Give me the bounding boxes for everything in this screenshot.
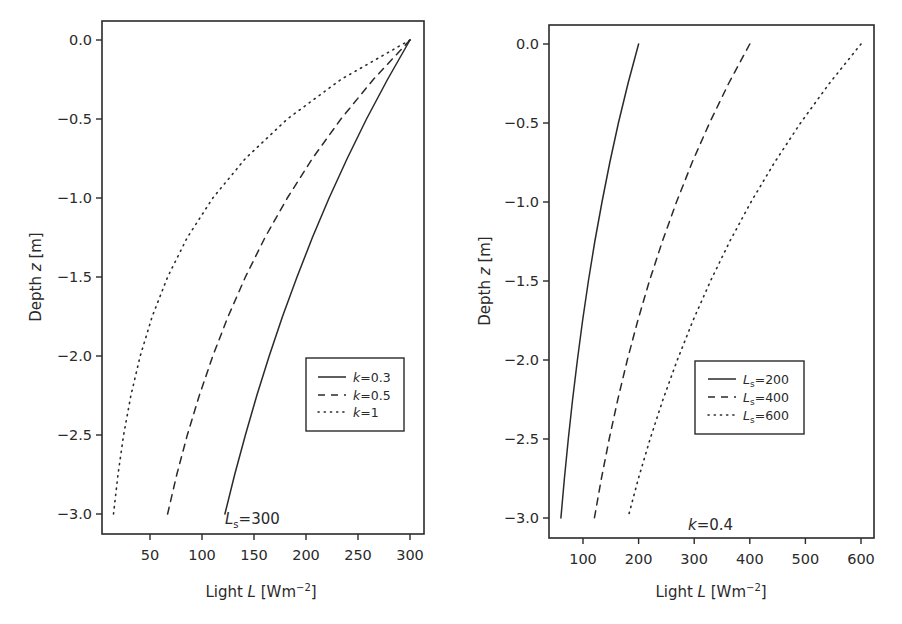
curve-k-1 <box>114 40 411 514</box>
figure: 0.0−0.5−1.0−1.5−2.0−2.5−3.0 501001502002… <box>0 0 902 624</box>
right-panel-depth-vs-light-varying-ls: 0.0−0.5−1.0−1.5−2.0−2.5−3.0 100200300400… <box>476 25 875 601</box>
left-panel-depth-vs-light-varying-k: 0.0−0.5−1.0−1.5−2.0−2.5−3.0 501001502002… <box>27 21 424 601</box>
x-tick-label: 50 <box>141 547 159 563</box>
y-tick-label: −2.0 <box>504 352 539 368</box>
k-annotation: k=0.4 <box>688 516 733 534</box>
y-tick-label: −1.0 <box>504 194 539 210</box>
curve-ls-400 <box>594 44 749 518</box>
legend-label-k05: k=0.5 <box>353 388 391 403</box>
plot-frame <box>549 25 874 538</box>
y-tick-label: −1.0 <box>57 190 92 206</box>
x-axis-label: Light L [Wm−2] <box>205 582 316 601</box>
legend: k=0.3 k=0.5 k=1 <box>306 358 404 431</box>
legend-label-ls400: Ls=400 <box>743 390 789 407</box>
y-axis-ticks: 0.0−0.5−1.0−1.5−2.0−2.5−3.0 <box>504 36 549 526</box>
x-tick-label: 150 <box>240 547 268 563</box>
y-tick-label: −1.5 <box>57 269 92 285</box>
x-tick-label: 100 <box>188 547 216 563</box>
x-tick-label: 300 <box>680 551 708 567</box>
y-tick-label: −0.5 <box>504 115 539 131</box>
y-tick-label: −1.5 <box>504 273 539 289</box>
y-tick-label: −3.0 <box>57 506 92 522</box>
x-tick-label: 400 <box>736 551 764 567</box>
curve-ls-600 <box>628 44 861 518</box>
curve-ls-200 <box>561 44 639 518</box>
y-tick-label: 0.0 <box>69 32 92 48</box>
y-axis-label: Depth z [m] <box>27 232 45 321</box>
curve-k-0-3 <box>225 40 410 514</box>
y-tick-label: 0.0 <box>516 36 539 52</box>
x-tick-label: 200 <box>292 547 320 563</box>
x-axis-ticks: 100200300400500600 <box>569 538 875 567</box>
curve-k-0-5 <box>168 40 410 514</box>
x-tick-label: 250 <box>344 547 372 563</box>
y-tick-label: −2.5 <box>504 431 539 447</box>
y-tick-label: −0.5 <box>57 111 92 127</box>
y-tick-label: −2.0 <box>57 348 92 364</box>
legend: Ls=200 Ls=400 Ls=600 <box>695 361 804 434</box>
data-curves <box>114 40 411 514</box>
plot-frame <box>102 21 424 534</box>
x-axis-label: Light L [Wm−2] <box>655 582 766 601</box>
y-axis-ticks: 0.0−0.5−1.0−1.5−2.0−2.5−3.0 <box>57 32 102 522</box>
data-curves <box>561 44 861 518</box>
x-tick-label: 200 <box>625 551 653 567</box>
x-tick-label: 100 <box>569 551 597 567</box>
y-tick-label: −2.5 <box>57 427 92 443</box>
legend-label-ls600: Ls=600 <box>743 408 789 425</box>
x-tick-label: 300 <box>396 547 424 563</box>
ls-annotation: Ls=300 <box>225 510 280 530</box>
legend-label-k1: k=1 <box>353 405 379 420</box>
legend-label-ls200: Ls=200 <box>743 372 789 389</box>
legend-label-k03: k=0.3 <box>353 370 391 385</box>
x-tick-label: 500 <box>792 551 820 567</box>
x-tick-label: 600 <box>847 551 875 567</box>
y-axis-label: Depth z [m] <box>476 236 494 325</box>
y-tick-label: −3.0 <box>504 510 539 526</box>
x-axis-ticks: 50100150200250300 <box>141 534 424 563</box>
